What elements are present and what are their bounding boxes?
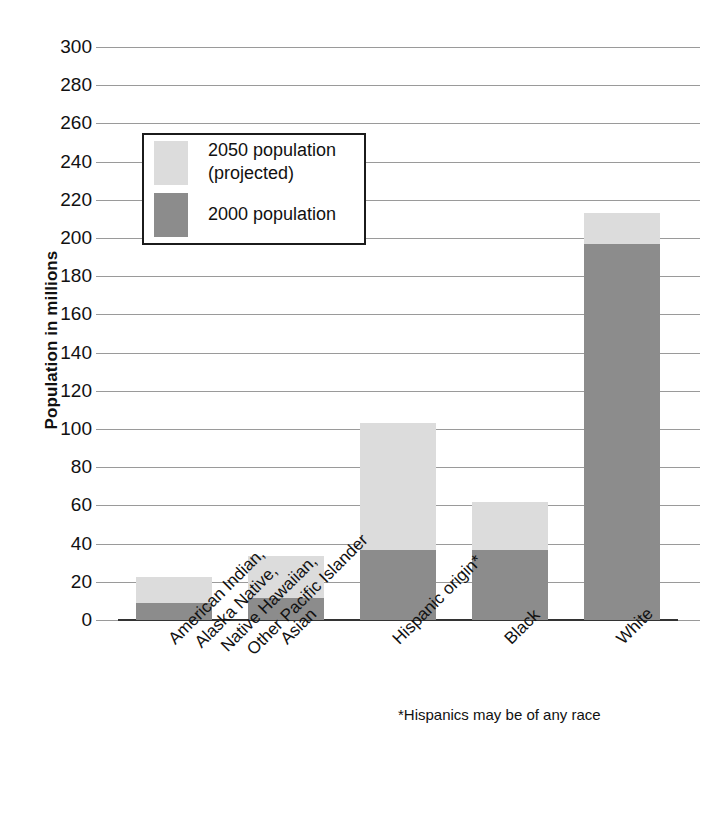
y-tick-label-120: 120 <box>28 381 92 400</box>
y-tick-mark-right-240 <box>678 162 700 163</box>
y-tick-mark-60 <box>96 505 118 506</box>
y-tick-mark-right-260 <box>678 123 700 124</box>
y-tick-mark-280 <box>96 85 118 86</box>
y-tick-mark-right-120 <box>678 391 700 392</box>
gridline-280 <box>118 85 678 86</box>
y-tick-mark-right-160 <box>678 314 700 315</box>
y-tick-label-200: 200 <box>28 228 92 247</box>
y-tick-mark-180 <box>96 276 118 277</box>
y-tick-mark-right-40 <box>678 544 700 545</box>
y-tick-label-0: 0 <box>28 610 92 629</box>
bar-segment-2000 <box>584 244 660 620</box>
y-tick-label-100: 100 <box>28 419 92 438</box>
y-tick-mark-220 <box>96 200 118 201</box>
y-tick-mark-140 <box>96 353 118 354</box>
y-tick-mark-200 <box>96 238 118 239</box>
gridline-300 <box>118 47 678 48</box>
y-tick-label-140: 140 <box>28 343 92 362</box>
bar-segment-2000 <box>472 550 548 620</box>
y-tick-label-160: 160 <box>28 304 92 323</box>
y-tick-label-300: 300 <box>28 37 92 56</box>
y-tick-mark-right-20 <box>678 582 700 583</box>
y-tick-label-60: 60 <box>28 495 92 514</box>
y-tick-mark-right-220 <box>678 200 700 201</box>
y-tick-mark-40 <box>96 544 118 545</box>
legend-label-2000: 2000 population <box>208 203 336 226</box>
y-tick-label-20: 20 <box>28 572 92 591</box>
y-tick-mark-80 <box>96 467 118 468</box>
bar-group <box>584 213 660 620</box>
bar-group <box>360 423 436 620</box>
y-tick-mark-right-180 <box>678 276 700 277</box>
y-tick-label-280: 280 <box>28 75 92 94</box>
y-tick-label-40: 40 <box>28 534 92 553</box>
y-tick-mark-20 <box>96 582 118 583</box>
y-tick-label-240: 240 <box>28 152 92 171</box>
chart-legend: 2050 population (projected) 2000 populat… <box>142 133 366 245</box>
footnote: *Hispanics may be of any race <box>398 706 601 723</box>
y-tick-mark-right-100 <box>678 429 700 430</box>
y-tick-label-80: 80 <box>28 457 92 476</box>
legend-label-2050-line2: (projected) <box>208 162 294 185</box>
y-tick-mark-240 <box>96 162 118 163</box>
dark-gray-swatch <box>154 193 188 237</box>
y-tick-mark-right-300 <box>678 47 700 48</box>
y-tick-mark-100 <box>96 429 118 430</box>
y-tick-mark-260 <box>96 123 118 124</box>
y-tick-label-180: 180 <box>28 266 92 285</box>
y-tick-mark-right-60 <box>678 505 700 506</box>
y-tick-mark-right-0 <box>678 620 700 621</box>
bar-group <box>472 502 548 620</box>
y-tick-label-260: 260 <box>28 113 92 132</box>
legend-label-2050-line1: 2050 population <box>208 139 336 162</box>
population-stacked-bar-chart: Population in millions 02040608010012014… <box>0 0 716 835</box>
y-tick-mark-0 <box>96 620 118 621</box>
y-tick-mark-120 <box>96 391 118 392</box>
y-tick-mark-right-200 <box>678 238 700 239</box>
light-gray-swatch <box>154 141 188 185</box>
y-tick-mark-right-280 <box>678 85 700 86</box>
y-tick-mark-right-80 <box>678 467 700 468</box>
y-tick-mark-300 <box>96 47 118 48</box>
y-tick-label-220: 220 <box>28 190 92 209</box>
y-tick-mark-right-140 <box>678 353 700 354</box>
gridline-260 <box>118 123 678 124</box>
y-tick-mark-160 <box>96 314 118 315</box>
